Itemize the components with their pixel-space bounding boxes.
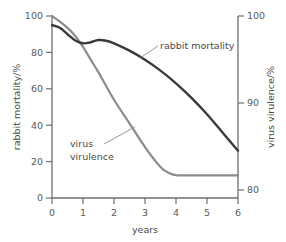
x-tick-label-1: 1 [80,207,86,218]
left-tick-label-40: 40 [31,120,43,131]
x-tick-label-3: 3 [142,207,148,218]
x-tick-label-6: 6 [235,207,241,218]
left-axis-title: rabbit mortality/% [11,64,22,151]
right-tick-label-90: 90 [247,97,259,108]
right-tick-label-100: 100 [247,10,265,21]
x-tick-label-0: 0 [49,207,55,218]
left-tick-label-20: 20 [31,156,43,167]
left-tick-label-0: 0 [37,192,43,203]
rabbit-mortality-annotation-label: rabbit mortality [160,40,235,51]
left-tick-label-60: 60 [31,83,43,94]
x-tick-label-5: 5 [204,207,210,218]
right-tick-label-80: 80 [247,184,259,195]
x-tick-label-2: 2 [111,207,117,218]
x-tick-label-4: 4 [173,207,179,218]
virus-virulence-annotation-label-line1: virus [70,138,93,149]
left-tick-label-80: 80 [31,47,43,58]
mortality-virulence-line-chart: 100 80 60 40 20 0 100 90 80 [0,0,286,242]
x-axis-title: years [132,224,158,235]
chart-figure: 100 80 60 40 20 0 100 90 80 [0,0,286,242]
left-tick-label-100: 100 [25,10,43,21]
right-axis-title: virus virulence/% [265,66,276,148]
virus-virulence-annotation-label-line2: virulence [70,151,114,162]
